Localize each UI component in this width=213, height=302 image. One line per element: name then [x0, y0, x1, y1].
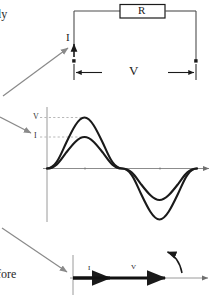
text-fragment-bottom-left: fore — [0, 268, 16, 280]
figure-root: ly fore R I V V I I V — [0, 0, 213, 302]
text-fragment-top-left: ly — [0, 8, 7, 20]
circuit-voltage-label: V — [129, 64, 138, 77]
circuit-current-label: I — [66, 32, 70, 43]
waveform-voltage-label: V — [33, 113, 39, 121]
phasor-current-label: I — [88, 265, 90, 272]
phasor-voltage-label: V — [131, 264, 136, 271]
waveform-current-label: I — [34, 132, 37, 140]
resistor-label: R — [138, 5, 145, 16]
figure-text-layer: ly fore R I V V I I V — [0, 0, 213, 302]
